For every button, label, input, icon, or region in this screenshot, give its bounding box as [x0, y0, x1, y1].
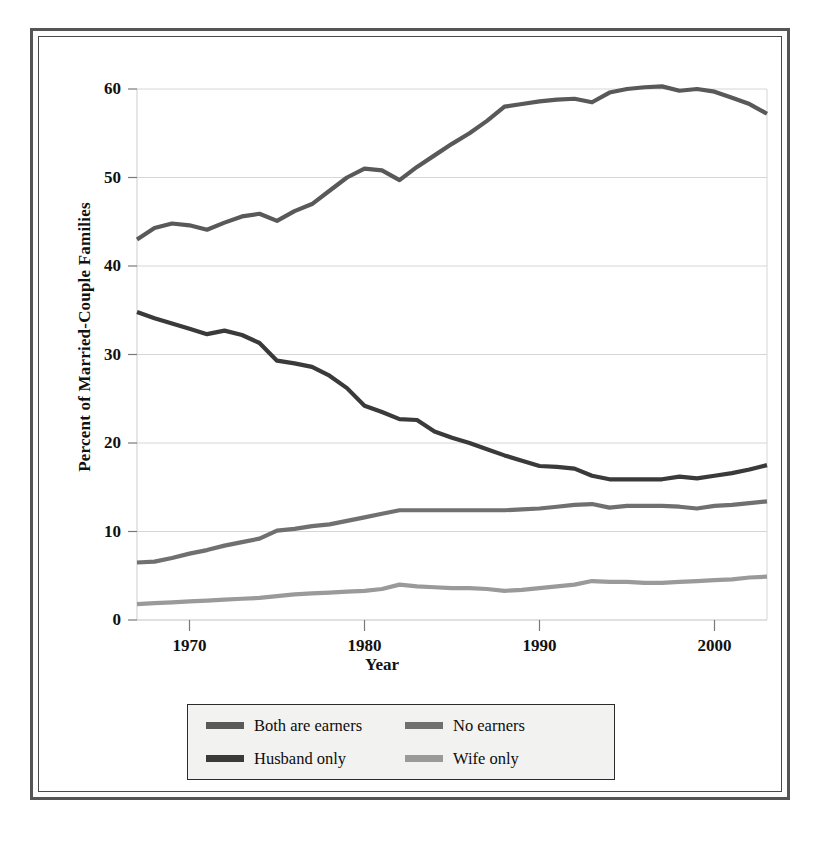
y-tick-label: 0	[113, 610, 122, 630]
figure-outer-border: Percent of Married-Couple Families Year …	[30, 28, 790, 800]
x-tick-label: 1980	[348, 636, 382, 656]
line-chart	[39, 37, 789, 799]
legend-item[interactable]: No earners	[405, 716, 604, 736]
y-tick-label: 40	[104, 256, 121, 276]
legend-label: No earners	[453, 716, 525, 736]
figure-inner-border: Percent of Married-Couple Families Year …	[38, 36, 782, 792]
legend-label: Husband only	[254, 749, 346, 769]
y-tick-label: 50	[104, 168, 121, 188]
legend-label: Both are earners	[254, 716, 362, 736]
y-tick-label: 20	[104, 433, 121, 453]
x-tick-label: 1990	[523, 636, 557, 656]
legend-item[interactable]: Husband only	[206, 749, 405, 769]
series-line-wife-only	[137, 577, 767, 604]
legend-label: Wife only	[453, 749, 519, 769]
legend-item[interactable]: Both are earners	[206, 716, 405, 736]
y-axis-title: Percent of Married-Couple Families	[75, 202, 95, 471]
figure-root: Percent of Married-Couple Families Year …	[0, 0, 820, 855]
chart-legend: Both are earnersNo earnersHusband onlyWi…	[187, 704, 615, 780]
series-line-husband-only	[137, 312, 767, 479]
legend-swatch-icon	[405, 755, 443, 762]
y-tick-label: 10	[104, 522, 121, 542]
series-line-both-are-earners	[137, 86, 767, 239]
legend-swatch-icon	[405, 722, 443, 729]
x-axis-title: Year	[7, 655, 757, 675]
y-tick-label: 60	[104, 79, 121, 99]
y-tick-label: 30	[104, 345, 121, 365]
plot-area: Percent of Married-Couple Families Year …	[39, 37, 781, 791]
x-tick-label: 2000	[698, 636, 732, 656]
legend-swatch-icon	[206, 755, 244, 762]
legend-item[interactable]: Wife only	[405, 749, 604, 769]
legend-swatch-icon	[206, 722, 244, 729]
x-tick-label: 1970	[173, 636, 207, 656]
legend-grid: Both are earnersNo earnersHusband onlyWi…	[188, 705, 614, 779]
